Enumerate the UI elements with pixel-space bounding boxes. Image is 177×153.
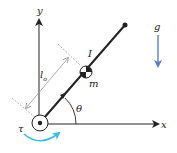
torque-label: τ [18, 123, 24, 134]
dimension-extension-top [58, 44, 80, 65]
pendulum-diagram: y x lo θ I m τ g [0, 0, 177, 153]
theta-label: θ [76, 103, 82, 114]
inertia-label: I [87, 48, 93, 59]
center-of-mass-icon [80, 66, 92, 78]
x-axis-label: x [161, 119, 167, 130]
y-axis-label: y [36, 5, 43, 16]
length-dimension-line [26, 58, 68, 108]
mass-label: m [89, 78, 98, 89]
pivot-joint-icon [32, 115, 48, 131]
length-label: lo [40, 69, 47, 82]
link-end-point [123, 23, 128, 28]
gravity-label: g [154, 21, 160, 32]
theta-arc [65, 98, 76, 124]
torque-arrow [24, 133, 59, 141]
